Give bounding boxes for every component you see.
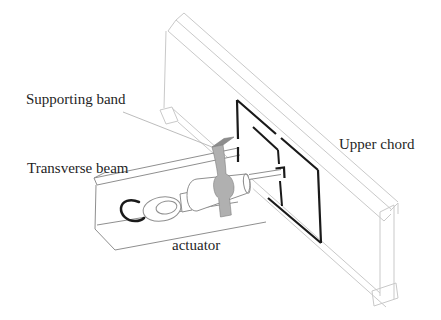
- piston-rod-drawing: [249, 168, 285, 180]
- chord-right-end: [372, 203, 398, 306]
- rod-halo: [249, 172, 281, 177]
- upper-chord-label: Upper chord: [339, 136, 414, 153]
- diagram-canvas: Supporting band Transverse beam Upper ch…: [0, 0, 441, 320]
- beam-left-end: [95, 185, 96, 229]
- supporting-band-label: Supporting band: [26, 91, 126, 108]
- transverse-beam-label: Transverse beam: [27, 160, 129, 177]
- leader-line-supporting-band: [123, 112, 212, 147]
- frame-inner-edge: [253, 127, 282, 206]
- chord-left-end: [160, 31, 178, 124]
- actuator-label: actuator: [172, 237, 220, 254]
